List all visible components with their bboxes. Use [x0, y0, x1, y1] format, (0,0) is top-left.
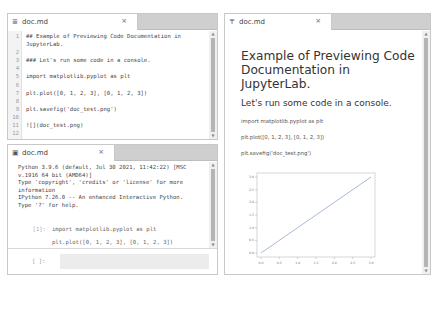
line-text: ### Let's run some code in a console. [22, 56, 151, 64]
x-tick-label: 1.5 [313, 261, 318, 265]
line-number [8, 40, 22, 48]
line-number: 12 [8, 129, 22, 137]
scrollbar-thumb[interactable] [211, 38, 215, 132]
console-input[interactable] [60, 254, 209, 269]
doc-heading-1: Example of Previewing Code Documentation… [241, 49, 418, 91]
line-text: ## Example of Previewing Code Documentat… [22, 32, 181, 40]
line-text [22, 81, 26, 89]
line-text: import matplotlib.pyplot as plt [22, 72, 130, 80]
line-number: 9 [8, 105, 22, 113]
y-tick-label: 1.5 [249, 213, 254, 217]
x-tick-label: 1.0 [295, 261, 300, 265]
line-number: 11 [8, 121, 22, 129]
line-number: 5 [8, 72, 22, 80]
editor-code-area[interactable]: 1## Example of Previewing Code Documenta… [8, 32, 209, 137]
scrollbar-thumb[interactable] [424, 38, 428, 267]
scroll-up-icon[interactable]: ▲ [209, 31, 217, 37]
code-line[interactable]: 11![](doc_test.png) [8, 121, 209, 129]
x-tick-label: 0.5 [277, 261, 282, 265]
y-tick-label: 1.0 [249, 226, 254, 230]
doc-heading-3: Let's run some code in a console. [241, 98, 418, 108]
x-tick-label: 2.0 [332, 261, 337, 265]
editor-tab[interactable]: ≣ doc.md × [8, 14, 138, 30]
line-text: plt.plot([0, 1, 2, 3], [0, 1, 2, 3]) [22, 89, 147, 97]
close-icon[interactable]: × [121, 17, 127, 25]
cell-code-line: import matplotlib.pyplot as plt [52, 223, 173, 236]
line-number: 2 [8, 48, 22, 56]
console-tab-bar: ▣ doc.md × [8, 145, 217, 161]
code-line[interactable]: 2 [8, 48, 209, 56]
line-text [22, 64, 26, 72]
line-number: 6 [8, 81, 22, 89]
console-panel: ▣ doc.md × Python 3.9.6 (default, Jul 30… [7, 144, 218, 275]
line-number: 4 [8, 64, 22, 72]
scroll-up-icon[interactable]: ▲ [422, 31, 430, 37]
scrollbar-thumb[interactable] [211, 169, 215, 241]
console-input-row: [ ]: [8, 248, 217, 274]
preview-tab[interactable]: ₸ doc.md × [225, 14, 332, 30]
preview-scrollbar[interactable]: ▲ ▼ [422, 31, 430, 274]
input-prompt: [ ]: [32, 258, 45, 264]
line-text: ![](doc_test.png) [22, 121, 83, 129]
doc-paragraph: import matplotlib.pyplot as plt [241, 118, 418, 124]
editor-tab-label: doc.md [22, 18, 48, 26]
x-tick-label: 0.0 [258, 261, 263, 265]
line-text [22, 97, 26, 105]
scroll-up-icon[interactable]: ▲ [209, 162, 217, 168]
line-number: 8 [8, 97, 22, 105]
code-line[interactable]: 9plt.savefig('doc_test.png') [8, 105, 209, 113]
code-line[interactable]: 12 [8, 129, 209, 137]
y-tick-label: 3.0 [249, 175, 254, 179]
doc-paragraph: plt.savefig('doc_test.png') [241, 150, 418, 156]
line-number: 1 [8, 32, 22, 40]
y-tick-label: 2.5 [249, 188, 254, 192]
line-text [22, 129, 26, 137]
console-tab[interactable]: ▣ doc.md × [8, 145, 115, 161]
preview-icon: ₸ [229, 18, 235, 26]
code-line[interactable]: 8 [8, 97, 209, 105]
x-tick-label: 3.0 [368, 261, 373, 265]
editor-scrollbar[interactable]: ▲ ▼ [209, 31, 217, 139]
scroll-down-icon[interactable]: ▼ [422, 268, 430, 274]
console-icon: ▣ [12, 149, 18, 157]
x-tick-label: 2.5 [350, 261, 355, 265]
line-number: 7 [8, 89, 22, 97]
code-line[interactable]: 10 [8, 113, 209, 121]
code-line[interactable]: 3### Let's run some code in a console. [8, 56, 209, 64]
preview-tab-label: doc.md [239, 18, 265, 26]
line-text: JupyterLab. [22, 40, 63, 48]
line-text [22, 48, 26, 56]
code-line[interactable]: 7plt.plot([0, 1, 2, 3], [0, 1, 2, 3]) [8, 89, 209, 97]
line-chart-image: 0.00.51.01.52.02.53.00.00.51.01.52.02.53… [237, 165, 387, 273]
console-banner: Python 3.9.6 (default, Jul 30 2021, 11:4… [18, 164, 207, 210]
line-number: 10 [8, 113, 22, 121]
chart-svg: 0.00.51.01.52.02.53.00.00.51.01.52.02.53… [237, 165, 387, 273]
close-icon[interactable]: × [98, 148, 104, 156]
preview-tab-bar: ₸ doc.md × [225, 14, 430, 30]
code-line[interactable]: 5import matplotlib.pyplot as plt [8, 72, 209, 80]
doc-paragraph: plt.plot([0, 1, 2, 3], [0, 1, 2, 3]) [241, 134, 418, 140]
y-tick-label: 2.0 [249, 200, 254, 204]
line-text [22, 113, 26, 121]
code-line[interactable]: JupyterLab. [8, 40, 209, 48]
markdown-preview-panel: ₸ doc.md × Example of Previewing Code Do… [224, 13, 431, 275]
close-icon[interactable]: × [315, 17, 321, 25]
line-text: plt.savefig('doc_test.png') [22, 105, 117, 113]
code-line[interactable]: 4 [8, 64, 209, 72]
y-tick-label: 0.5 [249, 238, 254, 242]
code-line[interactable]: 6 [8, 81, 209, 89]
code-line[interactable]: 1## Example of Previewing Code Documenta… [8, 32, 209, 40]
console-tab-label: doc.md [22, 149, 48, 157]
editor-tab-bar: ≣ doc.md × [8, 14, 217, 30]
console-scrollbar[interactable]: ▲ ▼ [209, 162, 217, 248]
y-tick-label: 0.0 [249, 251, 254, 255]
markdown-file-icon: ≣ [12, 18, 18, 26]
scroll-down-icon[interactable]: ▼ [209, 133, 217, 139]
markdown-editor-panel: ≣ doc.md × 1## Example of Previewing Cod… [7, 13, 218, 140]
rendered-document: Example of Previewing Code Documentation… [241, 31, 418, 156]
line-number: 3 [8, 56, 22, 64]
